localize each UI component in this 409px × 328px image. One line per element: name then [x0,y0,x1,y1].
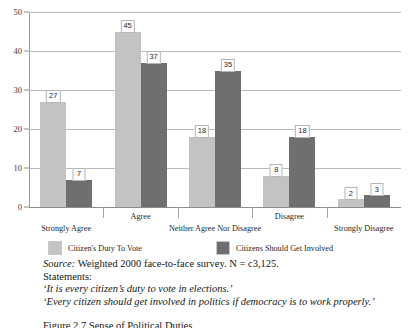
bar-value-label: 3 [370,183,383,196]
x-axis-category-label: Agree [131,212,151,221]
y-axis-tick-mark [24,12,29,13]
y-axis-tick-mark [24,129,29,130]
bar [338,199,364,207]
y-axis-tick-label: 10 [0,163,22,173]
figure-caption: Source: Weighted 2000 face-to-face surve… [43,258,409,308]
bar [66,180,92,207]
x-axis-category-label: Neither Agree Nor Disagree [169,224,261,233]
caption-statement-2: ‘Every citizen should get involved in po… [43,296,409,309]
legend-entry: Citizens Should Get Involved [216,241,333,255]
y-axis-tick-label: 0 [0,202,22,212]
x-axis-category-label: Strongly Agree [41,224,91,233]
bar-value-label: 18 [195,125,209,138]
gridline [29,51,401,52]
caption-statements-label: Statements: [43,271,409,284]
chart-plot-area: 010203040502774537183581823 [0,0,409,212]
bar-value-label: 45 [120,20,134,33]
category-tick [178,207,179,218]
bar-value-label: 7 [73,168,86,181]
bar [364,195,390,207]
gridline [29,12,401,13]
y-axis-tick-label: 20 [0,124,22,134]
bar-value-label: 8 [270,164,283,177]
figure-title-container: Figure 2.7 Sense of Political Duties [43,320,409,328]
y-axis-line [29,12,30,207]
caption-source-text: Weighted 2000 face-to-face survey. N = c… [78,258,279,269]
legend-swatch [48,241,62,255]
bar [215,71,241,208]
caption-statement-1: ‘It is every citizen’s duty to vote in e… [43,283,409,296]
legend-swatch [216,241,230,255]
legend-label: Citizen's Duty To Vote [68,244,142,253]
figure-title: Figure 2.7 Sense of Political Duties [43,320,409,328]
bar-value-label: 18 [295,125,309,138]
category-tick [252,207,253,218]
category-tick [327,207,328,218]
bar [263,176,289,207]
x-axis-category-label: Strongly Disagree [334,224,393,233]
bar [289,137,315,207]
y-axis-tick-mark [24,90,29,91]
bar-value-label: 27 [46,90,60,103]
category-tick [103,207,104,218]
bar-value-label: 37 [146,51,160,64]
y-axis-tick-mark [24,207,29,208]
caption-source-label: Source: [43,258,75,269]
bar [40,102,66,207]
legend-label: Citizens Should Get Involved [236,244,333,253]
caption-source-line: Source: Weighted 2000 face-to-face surve… [43,258,409,271]
chart-legend: Citizen's Duty To VoteCitizens Should Ge… [0,240,409,258]
y-axis-tick-label: 30 [0,85,22,95]
y-axis-tick-label: 40 [0,46,22,56]
bar [115,32,141,208]
figure-sense-of-political-duties: 010203040502774537183581823 Citizen's Du… [0,0,409,328]
y-axis-tick-label: 50 [0,7,22,17]
bar-value-label: 35 [221,59,235,72]
x-axis-line [29,207,401,208]
y-axis-tick-mark [24,51,29,52]
bar-value-label: 2 [344,187,357,200]
legend-entry: Citizen's Duty To Vote [48,241,142,255]
bar [189,137,215,207]
bar [141,63,167,207]
x-axis-category-label: Disagree [275,212,304,221]
y-axis-tick-mark [24,168,29,169]
